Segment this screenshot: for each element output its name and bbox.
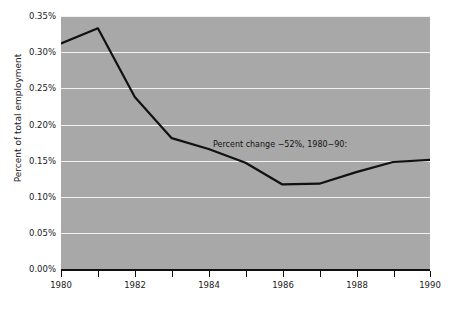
- chart-figure: 0.35% 0.30% 0.25% 0.20% 0.15% 0.10% 0.05…: [0, 0, 450, 315]
- x-tick-1983: [172, 271, 173, 277]
- y-tick-label-0.30: 0.30%: [29, 47, 56, 57]
- x-tick-1988: [357, 271, 358, 277]
- y-tick-label-0.35: 0.35%: [29, 11, 56, 21]
- y-tick-label-0.20: 0.20%: [29, 120, 56, 130]
- y-tick-label-0.10: 0.10%: [29, 192, 56, 202]
- x-tick-label-1990: 1990: [410, 280, 450, 290]
- y-tick-label-0.25: 0.25%: [29, 83, 56, 93]
- x-tick-1981: [98, 271, 99, 277]
- x-tick-1990: [430, 271, 431, 277]
- x-tick-1980: [61, 271, 62, 277]
- y-tick-label-0.15: 0.15%: [29, 156, 56, 166]
- x-tick-label-1988: 1988: [337, 280, 377, 290]
- chart-annotation: Percent change −52%, 1980−90:: [213, 140, 347, 149]
- x-tick-1987: [320, 271, 321, 277]
- x-tick-label-1980: 1980: [41, 280, 81, 290]
- y-tick-label-0.00: 0.00%: [29, 264, 56, 274]
- x-tick-label-1982: 1982: [115, 280, 155, 290]
- x-tick-1986: [283, 271, 284, 277]
- x-tick-1985: [246, 271, 247, 277]
- y-axis-title: Percent of total employment: [13, 28, 23, 208]
- x-tick-label-1984: 1984: [189, 280, 229, 290]
- x-tick-label-1986: 1986: [263, 280, 303, 290]
- y-axis-tick-labels: 0.35% 0.30% 0.25% 0.20% 0.15% 0.10% 0.05…: [0, 0, 56, 315]
- x-tick-1984: [209, 271, 210, 277]
- y-tick-label-0.05: 0.05%: [29, 228, 56, 238]
- x-tick-1982: [135, 271, 136, 277]
- x-tick-1989: [394, 271, 395, 277]
